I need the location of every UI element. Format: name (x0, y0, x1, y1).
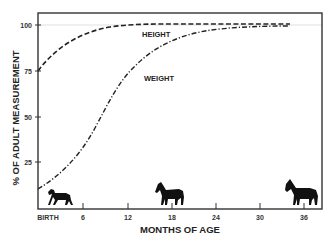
x-axis-title: MONTHS OF AGE (140, 224, 220, 235)
y-tick-75: 75 (24, 68, 32, 75)
y-tick-100: 100 (20, 22, 32, 29)
growth-chart: 100 75 50 25 BIRTH 6 12 18 24 30 36 MONT… (0, 0, 334, 241)
yearling-silhouette-icon (155, 182, 184, 205)
x-tick-24: 24 (212, 214, 220, 221)
x-tick-birth: BIRTH (37, 214, 58, 221)
y-tick-50: 50 (24, 114, 32, 121)
x-tick-12: 12 (124, 214, 132, 221)
x-tick-18: 18 (168, 214, 176, 221)
foal-silhouette-icon (48, 189, 73, 205)
plot-frame (38, 13, 322, 209)
x-tick-36: 36 (300, 214, 308, 221)
x-axis-ticks (83, 203, 304, 209)
weight-label: WEIGHT (144, 74, 174, 83)
y-tick-25: 25 (24, 159, 32, 166)
weight-series-line (38, 26, 290, 189)
x-tick-6: 6 (81, 214, 85, 221)
adult-horse-silhouette-icon (285, 179, 318, 205)
height-label: HEIGHT (142, 30, 171, 39)
x-tick-30: 30 (256, 214, 264, 221)
y-axis-title: % OF ADULT MEASUREMENT (10, 50, 21, 185)
